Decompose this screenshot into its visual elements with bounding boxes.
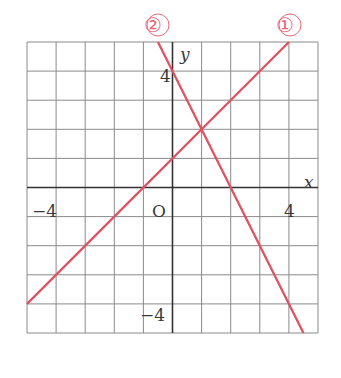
x-axis-label: x xyxy=(304,172,314,192)
x-tick-4: 4 xyxy=(284,201,295,221)
y-tick-neg4: −4 xyxy=(140,305,165,325)
series-line-1 xyxy=(27,42,289,304)
y-axis-label: y xyxy=(179,44,190,64)
origin-label: O xyxy=(152,201,166,221)
x-tick-neg4: −4 xyxy=(32,201,57,221)
coordinate-plane: x y O −4 4 4 −4 ② ① xyxy=(0,0,341,378)
axes xyxy=(27,42,318,333)
y-tick-4: 4 xyxy=(160,66,171,86)
